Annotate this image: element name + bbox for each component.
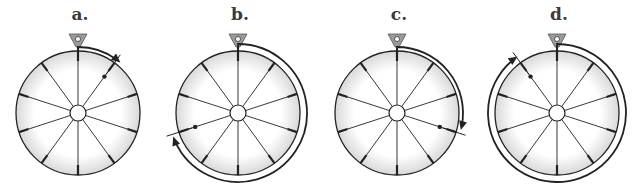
wheel-a: [16, 34, 140, 175]
wheel-d: [488, 34, 626, 182]
wheel-c: [335, 34, 467, 175]
pointer-hole: [555, 37, 560, 42]
pointer-hole: [395, 37, 400, 42]
pointer-hole: [236, 37, 241, 42]
hub: [230, 105, 246, 121]
arrowhead-icon: [459, 120, 467, 130]
marker-dot: [438, 125, 442, 129]
pointer-hole: [76, 37, 81, 42]
hub: [70, 105, 86, 121]
marker-dot: [528, 74, 532, 78]
marker-dot: [102, 74, 106, 78]
wheel-diagram: [0, 0, 640, 186]
hub: [389, 105, 405, 121]
wheel-b: [167, 34, 307, 182]
marker-dot: [193, 125, 197, 129]
arrowhead-icon: [172, 137, 180, 147]
hub: [549, 105, 565, 121]
